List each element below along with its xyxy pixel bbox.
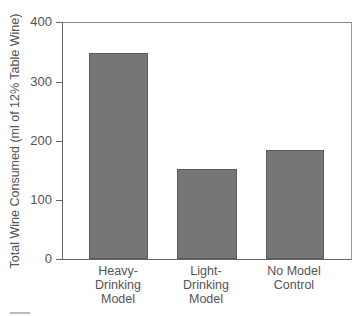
y-tick-label-400: 400 [30,15,52,29]
y-tick-label-100: 100 [30,193,52,207]
bar-light-drinking-model [177,169,237,259]
x-label-heavy-drinking-model: Heavy- Drinking Model [78,264,158,306]
y-tick-label-0: 0 [45,252,52,266]
x-label-light-drinking-model: Light- Drinking Model [166,264,246,306]
bar-heavy-drinking-model [89,53,148,260]
y-tick-label-300: 300 [30,75,52,89]
y-tick-label-200: 200 [30,134,52,148]
caption-fragment [10,312,30,314]
plot-area [62,22,352,260]
x-label-no-model-control: No Model Control [254,264,334,292]
y-axis-label: Total Wine Consumed (ml of 12% Table Win… [8,14,22,269]
bar-no-model-control [266,150,324,259]
